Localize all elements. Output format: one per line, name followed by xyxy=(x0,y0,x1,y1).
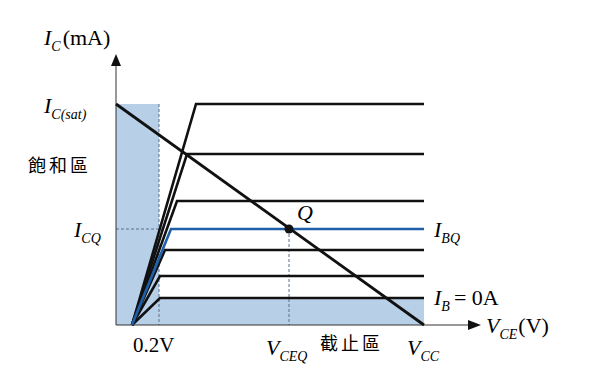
cutoff-region-label: 截止區 xyxy=(320,333,383,354)
x-axis-arrow-icon xyxy=(468,320,481,330)
ibq-label: IBQ xyxy=(433,217,460,246)
vceq-label: VCEQ xyxy=(266,335,307,364)
q-point-label: Q xyxy=(297,200,313,225)
y-axis-label: IC(mA) xyxy=(43,25,110,54)
bjt-characteristic-diagram: IC(mA) IC(sat) 飽和區 ICQ Q IBQ IB= 0A VCE(… xyxy=(0,0,597,385)
saturation-region-label: 飽和區 xyxy=(28,155,91,176)
cutoff-region-shade xyxy=(159,298,424,325)
ic-sat-label: IC(sat) xyxy=(43,93,87,123)
saturation-region-shade xyxy=(116,104,159,325)
ib0-label: IB= 0A xyxy=(433,285,499,314)
tick-0-2v: 0.2V xyxy=(133,333,174,357)
load-line xyxy=(116,104,424,325)
y-axis-arrow-icon xyxy=(111,54,121,66)
vcc-label: VCC xyxy=(407,335,440,364)
q-point xyxy=(285,225,294,234)
x-axis-label: VCE(V) xyxy=(486,313,549,342)
icq-label: ICQ xyxy=(73,217,101,246)
